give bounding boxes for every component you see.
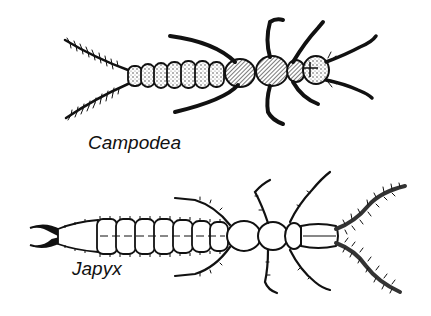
japyx-head [301, 224, 338, 248]
japyx-tail-segment [58, 220, 98, 252]
campodea-cerci [65, 38, 128, 120]
japyx-thorax [227, 221, 303, 251]
species-label-japyx: Japyx [72, 259, 122, 278]
campodea-antennae [326, 36, 376, 98]
campodea-cerci-bristles [67, 38, 119, 120]
illustration-canvas [0, 0, 431, 316]
japyx-forceps [30, 225, 60, 246]
campodea-drawing [65, 19, 376, 124]
insect-illustration [0, 0, 431, 316]
japyx-antennae [336, 183, 405, 293]
species-label-campodea: Campodea [88, 133, 181, 152]
campodea-abdomen [128, 61, 224, 88]
japyx-antenna-hairs [343, 183, 400, 293]
